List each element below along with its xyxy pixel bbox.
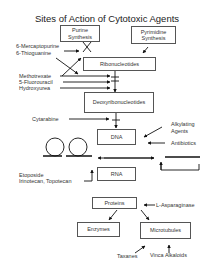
label-asparaginase: L-Asparaginase: [156, 202, 195, 209]
deoxyribonucleotides-box: Deoxyribonucleotides: [84, 92, 154, 113]
label-irinotecan: Irinotecan, Topotecan: [19, 178, 72, 185]
label-alkylating: Alkylating Agents: [171, 121, 195, 134]
alkylating-line1: Alkylating: [171, 121, 195, 128]
label-mercaptopurine: 6-Mercaptopurine: [16, 43, 59, 50]
alkylating-line2: Agents: [171, 128, 195, 135]
pyrimidine-line2: Synthesis: [142, 35, 166, 42]
label-taxanes: Taxanes: [117, 253, 138, 260]
purine-synthesis-box: Purine Synthesis: [60, 25, 100, 42]
purine-line2: Synthesis: [68, 34, 92, 41]
label-antibiotics: Antibiotics: [171, 140, 196, 147]
proteins-box: Proteins: [92, 197, 137, 209]
microtubules-box: Microtubules: [140, 222, 191, 239]
dna-box: DNA: [97, 129, 136, 145]
label-vinca: Vinca Alkaloids: [150, 252, 187, 259]
label-cytarabine: Cytarabine: [32, 116, 59, 123]
label-thioguanine: 6-Thioguanine: [16, 50, 51, 57]
ribonucleotides-box: Ribonucleotides: [83, 57, 156, 71]
rna-box: RNA: [97, 167, 136, 181]
pyrimidine-synthesis-box: Pyrimidine Synthesis: [131, 26, 176, 44]
enzymes-box: Enzymes: [77, 222, 120, 237]
label-hydroxyurea: Hydroxyurea: [19, 85, 50, 92]
